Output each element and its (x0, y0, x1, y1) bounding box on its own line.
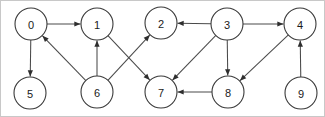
graph-node-5[interactable]: 5 (14, 77, 46, 109)
graph-edge-3-to-7 (172, 35, 215, 80)
graph-edge-8-to-7 (178, 89, 213, 94)
node-layer: 0123456789 (14, 7, 317, 109)
node-label: 6 (94, 87, 100, 99)
graph-node-7[interactable]: 7 (145, 76, 177, 108)
node-label: 2 (158, 18, 164, 30)
node-label: 1 (94, 19, 100, 31)
graph-node-1[interactable]: 1 (81, 8, 113, 40)
arrowhead-icon (94, 41, 99, 47)
graph-node-9[interactable]: 9 (285, 77, 317, 109)
graph-edge-9-to-4 (298, 41, 303, 78)
node-label: 4 (297, 19, 303, 31)
arrowhead-icon (28, 70, 33, 76)
graph-edge-3-to-4 (243, 21, 284, 26)
directed-graph-figure: 0123456789 (0, 0, 325, 117)
node-label: 9 (298, 88, 304, 100)
node-label: 0 (28, 19, 34, 31)
edge-line (172, 35, 215, 80)
graph-edge-3-to-8 (225, 40, 230, 76)
graph-edge-3-to-2 (178, 21, 212, 26)
node-label: 5 (27, 88, 33, 100)
graph-node-4[interactable]: 4 (284, 8, 316, 40)
graph-node-3[interactable]: 3 (211, 8, 243, 40)
graph-edge-0-to-1 (47, 21, 81, 26)
graph-node-6[interactable]: 6 (81, 76, 113, 108)
edge-line (42, 36, 85, 81)
graph-edge-6-to-1 (94, 41, 99, 77)
graph-node-0[interactable]: 0 (15, 8, 47, 40)
graph-edge-4-to-8 (240, 35, 288, 81)
graph-node-8[interactable]: 8 (212, 76, 244, 108)
node-label: 3 (224, 19, 230, 31)
graph-node-2[interactable]: 2 (145, 7, 177, 39)
arrowhead-icon (225, 69, 230, 75)
arrowhead-icon (74, 21, 80, 26)
arrowhead-icon (277, 21, 283, 26)
node-label: 8 (225, 87, 231, 99)
node-label: 7 (158, 87, 164, 99)
arrowhead-icon (178, 21, 184, 26)
arrowhead-icon (298, 41, 303, 47)
graph-canvas: 0123456789 (1, 1, 325, 117)
edge-line (240, 35, 288, 81)
graph-edge-0-to-5 (28, 40, 33, 77)
graph-edge-6-to-0 (42, 36, 85, 81)
arrowhead-icon (178, 89, 184, 94)
